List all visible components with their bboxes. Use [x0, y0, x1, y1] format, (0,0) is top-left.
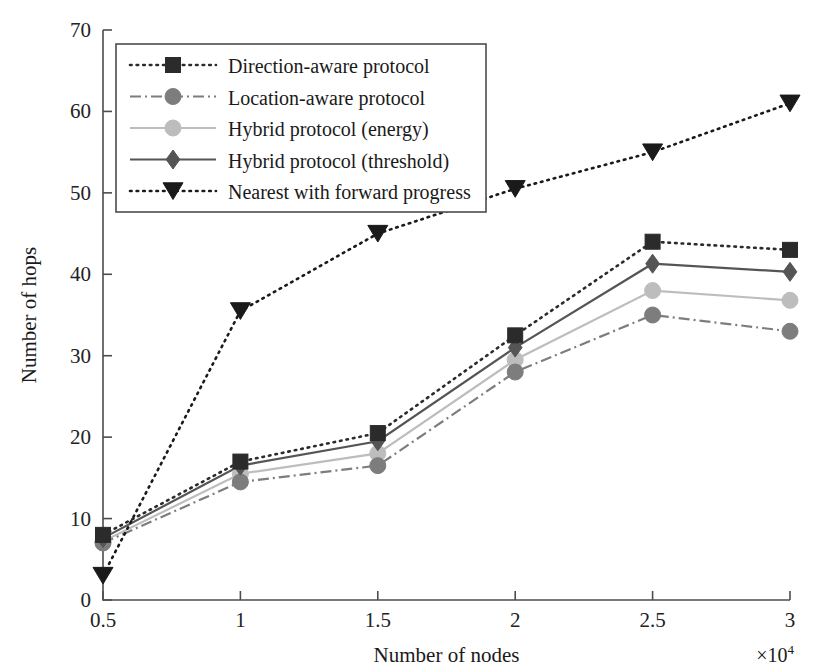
y-tick-label: 30 — [70, 344, 91, 368]
legend-sample-marker — [165, 89, 181, 105]
x-tick-label: 1 — [235, 608, 246, 632]
y-axis-title: Number of hops — [17, 247, 41, 383]
data-point-marker — [507, 364, 523, 380]
data-point-marker — [370, 426, 385, 441]
legend-label: Hybrid protocol (energy) — [228, 118, 429, 141]
legend-label: Hybrid protocol (threshold) — [228, 150, 449, 173]
data-point-marker — [505, 181, 525, 198]
data-point-marker — [783, 242, 798, 257]
legend-label: Direction-aware protocol — [228, 55, 430, 78]
data-point-marker — [645, 307, 661, 323]
line-chart: 0102030405060700.511.522.53Number of hop… — [0, 0, 837, 672]
data-point-marker — [780, 95, 800, 112]
legend-sample-marker — [166, 58, 181, 73]
y-tick-label: 50 — [70, 181, 91, 205]
data-point-marker — [782, 323, 798, 339]
legend-label: Nearest with forward progress — [228, 181, 471, 204]
y-tick-label: 40 — [70, 262, 91, 286]
data-point-marker — [783, 262, 797, 281]
series-line — [103, 315, 790, 543]
legend-label: Location-aware protocol — [228, 87, 426, 110]
data-point-marker — [368, 225, 388, 242]
data-point-marker — [645, 283, 661, 299]
data-point-marker — [782, 292, 798, 308]
x-axis-title: Number of nodes — [374, 643, 520, 667]
y-tick-label: 60 — [70, 99, 91, 123]
data-point-marker — [646, 254, 660, 273]
x-tick-label: 3 — [785, 608, 796, 632]
data-point-marker — [93, 567, 113, 584]
data-point-marker — [232, 474, 248, 490]
x-tick-label: 2.5 — [639, 608, 665, 632]
data-point-marker — [645, 234, 660, 249]
series-line — [103, 291, 790, 542]
data-point-marker — [96, 527, 111, 542]
data-point-marker — [643, 144, 663, 161]
data-point-marker — [233, 454, 248, 469]
y-tick-label: 70 — [70, 18, 91, 42]
data-point-marker — [370, 458, 386, 474]
legend-sample-marker — [165, 120, 181, 136]
x-tick-label: 2 — [510, 608, 521, 632]
data-point-marker — [508, 328, 523, 343]
data-point-marker — [230, 303, 250, 320]
figure-container: 0102030405060700.511.522.53Number of hop… — [0, 0, 837, 672]
x-tick-label: 0.5 — [90, 608, 116, 632]
y-tick-label: 20 — [70, 425, 91, 449]
x-tick-label: 1.5 — [365, 608, 391, 632]
x-axis-multiplier: ×104 — [756, 642, 794, 666]
y-tick-label: 10 — [70, 507, 91, 531]
